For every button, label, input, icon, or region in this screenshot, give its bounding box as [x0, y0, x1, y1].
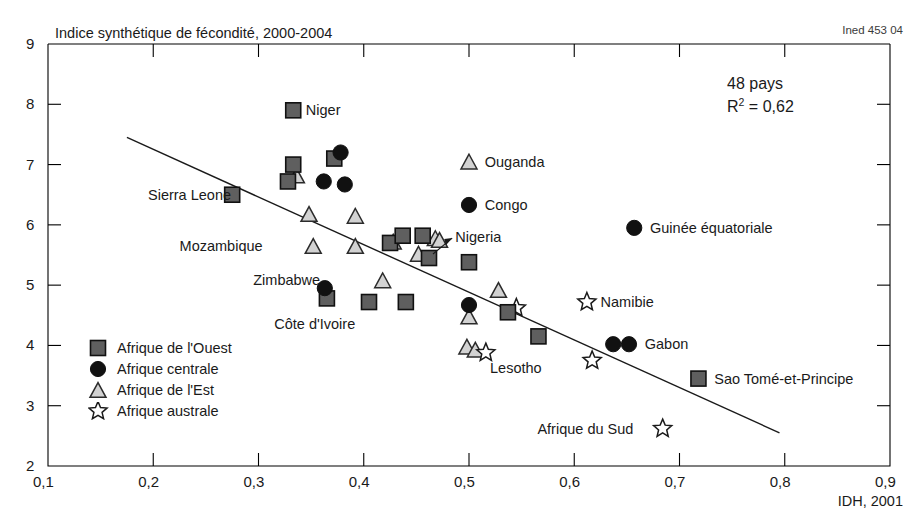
x-tick-label: 0,2: [138, 474, 159, 489]
legend-label: Afrique de l'Ouest: [117, 340, 232, 356]
legend-item-3[interactable]: Afrique de l'Est: [88, 379, 232, 400]
country-label-mozambique: Mozambique: [180, 239, 263, 254]
country-label-congo: Congo: [485, 198, 528, 213]
square-marker: [286, 157, 301, 172]
legend-item-2[interactable]: Afrique centrale: [88, 358, 232, 379]
country-label-afrique-du-sud: Afrique du Sud: [537, 422, 633, 437]
plot-area: [0, 0, 917, 522]
square-marker: [280, 174, 295, 189]
star-marker: [88, 402, 110, 420]
circle-marker: [90, 361, 105, 376]
country-label-sierra-leone: Sierra Leone: [148, 188, 231, 203]
x-tick-label: 0,8: [770, 474, 791, 489]
circle-marker: [337, 177, 352, 192]
square-marker: [531, 329, 546, 344]
triangle-marker: [301, 207, 317, 222]
circle-marker: [461, 297, 476, 312]
legend-label: Afrique centrale: [117, 361, 219, 377]
triangle-marker: [305, 239, 321, 254]
country-label-sao-tome-et-principe: Sao Tomé-et-Principe: [714, 372, 853, 387]
square-marker: [415, 228, 430, 243]
x-tick-label: 0,4: [349, 474, 370, 489]
country-label-nigeria: Nigeria: [455, 230, 501, 245]
circle-marker: [461, 197, 476, 212]
star-marker: [89, 402, 107, 419]
star-marker: [583, 351, 601, 368]
square-marker: [88, 339, 110, 357]
x-tick-label: 0,7: [665, 474, 686, 489]
square-marker: [462, 255, 477, 270]
y-tick-label: 7: [26, 157, 34, 172]
country-label-zimbabwe: Zimbabwe: [253, 273, 320, 288]
series-circle: [316, 145, 642, 352]
triangle-marker: [375, 273, 391, 288]
square-marker: [691, 371, 706, 386]
triangle-marker: [90, 382, 106, 397]
x-tick-label: 0,6: [559, 474, 580, 489]
country-label-guinee-equatoriale: Guinée équatoriale: [650, 221, 773, 236]
triangle-marker: [461, 154, 477, 169]
triangle-marker: [490, 283, 506, 298]
x-tick-label: 0,5: [454, 474, 475, 489]
legend: Afrique de l'OuestAfrique centraleAfriqu…: [88, 337, 232, 421]
square-marker: [395, 228, 410, 243]
y-tick-label: 3: [26, 398, 34, 413]
legend-item-1[interactable]: Afrique de l'Ouest: [88, 337, 232, 358]
star-marker: [477, 343, 495, 360]
circle-marker: [88, 360, 110, 378]
star-marker: [578, 293, 596, 310]
square-marker: [286, 103, 301, 118]
y-tick-label: 4: [26, 337, 34, 352]
country-label-ouganda: Ouganda: [485, 155, 545, 170]
country-label-niger: Niger: [306, 103, 341, 118]
circle-marker: [333, 145, 348, 160]
country-label-namibie: Namibie: [601, 295, 654, 310]
square-marker: [398, 295, 413, 310]
star-marker: [654, 419, 672, 436]
country-label-gabon: Gabon: [645, 337, 689, 352]
y-tick-label: 2: [26, 458, 34, 473]
circle-marker: [627, 220, 642, 235]
x-tick-label: 0,1: [33, 474, 54, 489]
y-tick-label: 8: [26, 96, 34, 111]
country-label-cote-divoire: Côte d'Ivoire: [274, 317, 355, 332]
triangle-marker: [347, 208, 363, 223]
y-tick-label: 5: [26, 277, 34, 292]
legend-label: Afrique australe: [117, 403, 219, 419]
y-tick-label: 6: [26, 217, 34, 232]
fertility-hdi-scatter-figure: Indice synthétique de fécondité, 2000-20…: [0, 0, 917, 522]
y-tick-label: 9: [26, 36, 34, 51]
square-marker: [91, 340, 106, 355]
x-tick-label: 0,3: [244, 474, 265, 489]
legend-label: Afrique de l'Est: [117, 382, 214, 398]
legend-item-4[interactable]: Afrique australe: [88, 400, 232, 421]
triangle-marker: [347, 239, 363, 254]
triangle-marker: [88, 381, 110, 399]
x-tick-label: 0,9: [875, 474, 896, 489]
square-marker: [362, 295, 377, 310]
circle-marker: [606, 337, 621, 352]
circle-marker: [621, 337, 636, 352]
circle-marker: [316, 174, 331, 189]
square-marker: [500, 305, 515, 320]
country-label-lesotho: Lesotho: [490, 361, 542, 376]
